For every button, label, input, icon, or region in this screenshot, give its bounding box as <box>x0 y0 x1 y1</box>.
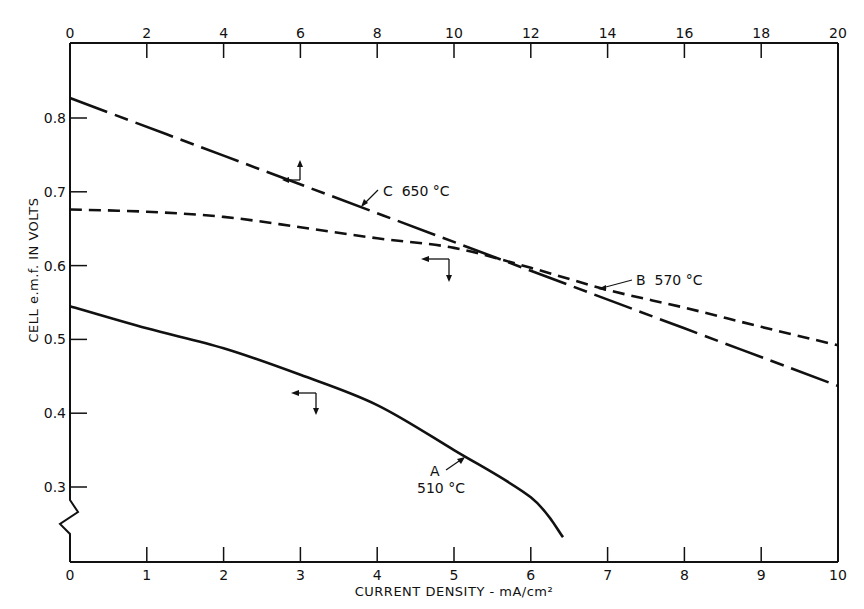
curve-b-label-text: B 570 °C <box>636 272 703 288</box>
curve-a <box>70 306 563 537</box>
top-x-tick-label: 0 <box>66 25 75 41</box>
curve-b <box>70 210 838 346</box>
x-tick-label: 1 <box>142 567 151 583</box>
x-tick-label: 3 <box>296 567 305 583</box>
y-tick-label: 0.6 <box>44 258 66 274</box>
y-tick-label: 0.4 <box>44 405 66 421</box>
top-x-tick-label: 14 <box>599 25 617 41</box>
top-x-tick-label: 16 <box>675 25 693 41</box>
top-x-tick-label: 10 <box>445 25 463 41</box>
curves <box>70 98 838 537</box>
y-tick-label: 0.8 <box>44 110 66 126</box>
curve-c <box>70 98 838 386</box>
top-x-axis: 02468101214161820 <box>66 25 847 58</box>
top-x-tick-label: 4 <box>219 25 228 41</box>
x-tick-label: 4 <box>373 567 382 583</box>
curve-c-label: C 650 °C <box>361 183 450 207</box>
x-axis-title: CURRENT DENSITY - mA/cm² <box>355 584 554 599</box>
axis-marker-b <box>421 256 452 282</box>
top-x-tick-label: 20 <box>829 25 847 41</box>
y-tick-label: 0.3 <box>44 479 66 495</box>
curve-c-label-text: C 650 °C <box>383 183 450 199</box>
y-tick-label: 0.7 <box>44 184 66 200</box>
x-tick-label: 2 <box>219 567 228 583</box>
top-x-tick-label: 8 <box>373 25 382 41</box>
y-axis-title: CELL e.m.f. IN VOLTS <box>26 198 41 343</box>
curve-b-label: B 570 °C <box>598 272 703 291</box>
x-tick-label: 5 <box>450 567 459 583</box>
axis-marker-a <box>291 390 319 415</box>
x-tick-label: 6 <box>526 567 535 583</box>
x-tick-label: 8 <box>680 567 689 583</box>
top-x-tick-label: 6 <box>296 25 305 41</box>
bottom-x-axis: 012345678910 <box>66 547 847 583</box>
axis-marker-c <box>282 160 303 183</box>
y-tick-label: 0.5 <box>44 331 66 347</box>
curve-a-label-temp: 510 °C <box>417 480 465 496</box>
x-tick-label: 10 <box>829 567 847 583</box>
x-tick-label: 0 <box>66 567 75 583</box>
top-x-tick-label: 2 <box>142 25 151 41</box>
chart: 02468101214161820 012345678910 0.30.40.5… <box>0 0 864 609</box>
curve-a-label-letter: A <box>430 463 440 479</box>
x-tick-label: 9 <box>757 567 766 583</box>
x-tick-label: 7 <box>603 567 612 583</box>
y-axis: 0.30.40.50.60.70.8 <box>44 110 87 495</box>
curve-a-label: A 510 °C <box>417 457 465 496</box>
top-x-tick-label: 18 <box>752 25 770 41</box>
top-x-tick-label: 12 <box>522 25 540 41</box>
